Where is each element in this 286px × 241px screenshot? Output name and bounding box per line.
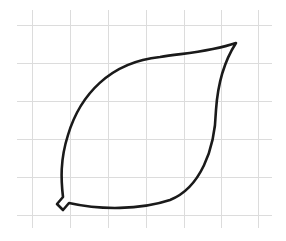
leaf-grid-figure xyxy=(0,0,286,241)
